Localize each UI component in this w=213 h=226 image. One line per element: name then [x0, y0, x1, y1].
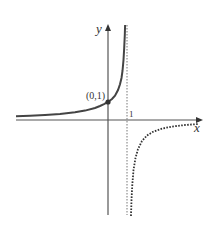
y-axis-label: y — [96, 22, 102, 35]
point-label: (0,1) — [86, 91, 105, 101]
function-graph — [0, 0, 213, 226]
asymptote-tick-label: 1 — [129, 110, 134, 119]
marked-point — [105, 99, 110, 104]
x-axis-label: x — [194, 121, 200, 134]
y-axis-arrow-icon — [105, 24, 111, 31]
curve-right-branch — [131, 124, 199, 216]
